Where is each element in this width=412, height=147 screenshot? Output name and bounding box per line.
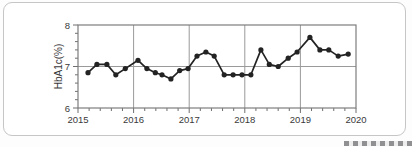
x-tick-label: 2019 [290,114,311,125]
data-point [267,62,272,67]
data-point [295,49,300,54]
x-tick-label: 2017 [179,114,200,125]
data-point [307,35,312,40]
data-point [336,54,341,59]
data-point [326,47,331,52]
data-point [85,70,90,75]
y-tick-label: 8 [65,20,70,31]
data-point [94,62,99,67]
data-point [194,54,199,59]
data-point [104,62,109,67]
data-point [276,64,281,69]
x-tick-label: 2020 [345,114,366,125]
data-point [168,76,173,81]
data-point [258,47,263,52]
data-point [135,58,140,63]
data-point [203,49,208,54]
y-tick-label: 7 [65,61,70,72]
data-point [177,68,182,73]
screenshot-stage: 678201520162017201820192020HbA1c(%) [0,0,412,147]
cutoff-caption-fragment [344,141,412,146]
x-tick-label: 2018 [234,114,255,125]
data-point [123,66,128,71]
hba1c-line-chart: 678201520162017201820192020HbA1c(%) [0,0,412,147]
hba1c-series-line [88,37,348,79]
y-axis-title: HbA1c(%) [53,44,64,90]
data-point [231,72,236,77]
data-point [248,72,253,77]
data-point [286,56,291,61]
data-point [212,54,217,59]
data-point [144,66,149,71]
y-tick-label: 6 [65,103,70,114]
data-point [317,47,322,52]
x-tick-label: 2015 [67,114,88,125]
data-point [153,70,158,75]
data-point [346,52,351,57]
data-point [186,66,191,71]
data-point [239,72,244,77]
x-tick-label: 2016 [123,114,144,125]
data-point [159,72,164,77]
data-point [222,72,227,77]
data-point [113,72,118,77]
